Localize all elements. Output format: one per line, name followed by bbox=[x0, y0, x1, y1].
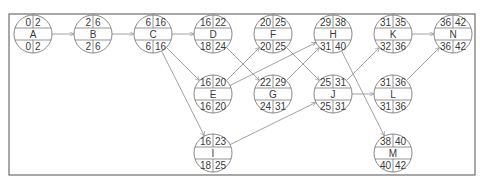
activity-name: G bbox=[269, 89, 277, 100]
late-finish: 24 bbox=[215, 41, 227, 52]
node-d[interactable]: 1622D1824 bbox=[194, 15, 232, 53]
early-finish: 38 bbox=[335, 17, 347, 28]
activity-name: F bbox=[270, 29, 276, 40]
node-e[interactable]: 1620E1620 bbox=[194, 75, 232, 113]
early-finish: 35 bbox=[395, 17, 407, 28]
early-start: 20 bbox=[260, 17, 272, 28]
early-finish: 36 bbox=[395, 77, 407, 88]
late-start: 32 bbox=[380, 41, 392, 52]
late-start: 18 bbox=[200, 160, 212, 171]
late-finish: 16 bbox=[155, 41, 167, 52]
early-start: 6 bbox=[145, 17, 151, 28]
early-start: 2 bbox=[85, 17, 91, 28]
edge-j-k bbox=[346, 48, 379, 81]
early-start: 16 bbox=[200, 77, 212, 88]
activity-name: B bbox=[90, 29, 97, 40]
early-finish: 16 bbox=[155, 17, 167, 28]
activity-name: J bbox=[331, 89, 336, 100]
early-start: 0 bbox=[25, 17, 31, 28]
late-start: 18 bbox=[200, 41, 212, 52]
activity-name: L bbox=[390, 89, 396, 100]
node-n[interactable]: 3642N3642 bbox=[434, 15, 472, 53]
late-start: 2 bbox=[85, 41, 91, 52]
early-start: 25 bbox=[320, 77, 332, 88]
late-finish: 25 bbox=[275, 41, 287, 52]
node-m[interactable]: 3840M4042 bbox=[374, 134, 412, 172]
node-a[interactable]: 02A02 bbox=[14, 15, 52, 53]
edge-l-n bbox=[406, 48, 439, 81]
late-finish: 25 bbox=[215, 160, 227, 171]
late-finish: 40 bbox=[335, 41, 347, 52]
nodes-layer: 02A0226B26616C6161622D18242025F20252938H… bbox=[14, 15, 472, 172]
activity-name: M bbox=[389, 148, 397, 159]
late-start: 31 bbox=[320, 41, 332, 52]
early-finish: 25 bbox=[275, 17, 287, 28]
early-start: 16 bbox=[200, 17, 212, 28]
early-finish: 22 bbox=[215, 17, 227, 28]
late-finish: 31 bbox=[275, 101, 287, 112]
early-finish: 2 bbox=[35, 17, 41, 28]
node-l[interactable]: 3136L3136 bbox=[374, 75, 412, 113]
late-start: 25 bbox=[320, 101, 332, 112]
node-i[interactable]: 1623I1825 bbox=[194, 134, 232, 172]
activity-name: I bbox=[212, 148, 215, 159]
node-j[interactable]: 2531J2531 bbox=[314, 75, 352, 113]
activity-name: K bbox=[390, 29, 397, 40]
node-b[interactable]: 26B26 bbox=[74, 15, 112, 53]
early-finish: 23 bbox=[215, 136, 227, 147]
late-start: 0 bbox=[25, 41, 31, 52]
node-h[interactable]: 2938H3140 bbox=[314, 15, 352, 53]
late-start: 20 bbox=[260, 41, 272, 52]
early-finish: 6 bbox=[95, 17, 101, 28]
early-finish: 31 bbox=[335, 77, 347, 88]
late-finish: 36 bbox=[395, 101, 407, 112]
early-start: 36 bbox=[440, 17, 452, 28]
node-k[interactable]: 3135K3236 bbox=[374, 15, 412, 53]
late-start: 36 bbox=[440, 41, 452, 52]
early-finish: 40 bbox=[395, 136, 407, 147]
node-f[interactable]: 2025F2025 bbox=[254, 15, 292, 53]
late-finish: 31 bbox=[335, 101, 347, 112]
node-g[interactable]: 2229G2431 bbox=[254, 75, 292, 113]
late-finish: 6 bbox=[95, 41, 101, 52]
early-start: 22 bbox=[260, 77, 272, 88]
early-start: 38 bbox=[380, 136, 392, 147]
early-finish: 20 bbox=[215, 77, 227, 88]
early-finish: 42 bbox=[455, 17, 467, 28]
activity-name: D bbox=[209, 29, 216, 40]
activity-name: H bbox=[329, 29, 336, 40]
late-start: 40 bbox=[380, 160, 392, 171]
late-finish: 36 bbox=[395, 41, 407, 52]
edge-c-e bbox=[166, 47, 199, 80]
early-start: 31 bbox=[380, 77, 392, 88]
late-start: 16 bbox=[200, 101, 212, 112]
network-diagram: 02A0226B26616C6161622D18242025F20252938H… bbox=[0, 0, 483, 184]
late-finish: 20 bbox=[215, 101, 227, 112]
late-finish: 42 bbox=[395, 160, 407, 171]
late-start: 24 bbox=[260, 101, 272, 112]
activity-name: E bbox=[210, 89, 217, 100]
node-c[interactable]: 616C616 bbox=[134, 15, 172, 53]
early-start: 16 bbox=[200, 136, 212, 147]
activity-name: C bbox=[149, 29, 156, 40]
early-start: 29 bbox=[320, 17, 332, 28]
early-finish: 29 bbox=[275, 77, 287, 88]
late-start: 31 bbox=[380, 101, 392, 112]
late-finish: 42 bbox=[455, 41, 467, 52]
late-start: 6 bbox=[145, 41, 151, 52]
late-finish: 2 bbox=[35, 41, 41, 52]
activity-name: N bbox=[449, 29, 456, 40]
early-start: 31 bbox=[380, 17, 392, 28]
activity-name: A bbox=[30, 29, 37, 40]
